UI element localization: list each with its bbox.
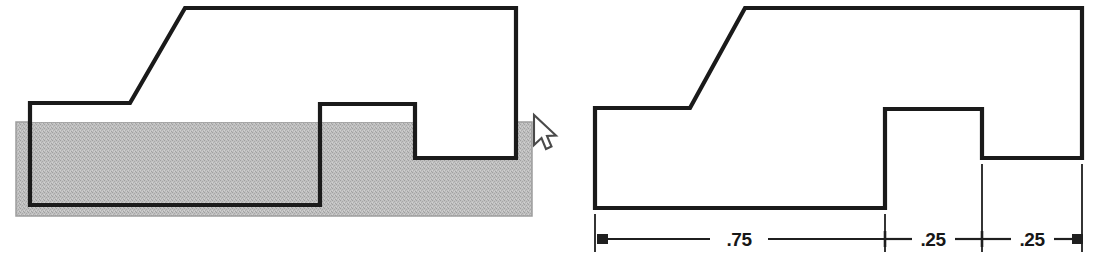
left-figure-group <box>16 8 532 216</box>
dimension-label-3: .25 <box>1020 229 1046 250</box>
mouse-cursor <box>534 115 556 149</box>
dimension-arrow-right-terminator <box>1072 234 1083 244</box>
right-figure-group <box>595 8 1082 208</box>
profile-white-right-step <box>415 122 516 158</box>
screenshot-canvas: .75 .25 .25 <box>0 0 1097 267</box>
dimension-arrow-left-terminator <box>597 234 608 244</box>
profile-white-notch <box>320 104 415 122</box>
cursor-arrow-icon <box>534 115 556 149</box>
technical-drawing-svg: .75 .25 .25 <box>0 0 1097 267</box>
dimension-label-2: .25 <box>921 229 947 250</box>
dimension-label-1: .75 <box>727 229 753 250</box>
right-profile-outline <box>595 8 1082 208</box>
